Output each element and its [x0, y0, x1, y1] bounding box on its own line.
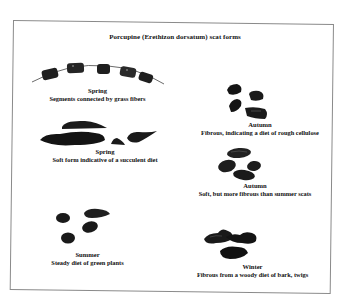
description-label: Soft, but more fibrous than summer scats [175, 190, 335, 198]
caption-winter: Winter Fibrous from a woody diet of bark… [170, 263, 335, 279]
figure-title: Porcupine (Erethizon dorsatum) scat form… [0, 33, 350, 41]
spring-segmented-scat-illustration [28, 56, 168, 88]
autumn-soft-scat-illustration [217, 147, 279, 182]
caption-summer: Summer Steady diet of green plants [25, 251, 150, 267]
caption-autumn-2: Autumn Soft, but more fibrous than summe… [175, 182, 335, 198]
season-label: Autumn [175, 182, 335, 190]
season-label: Spring [25, 87, 170, 95]
caption-autumn-1: Autumn Fibrous, indicating a diet of rou… [185, 121, 335, 137]
season-label: Autumn [185, 121, 335, 129]
caption-spring-1: Spring Segments connected by grass fiber… [25, 87, 170, 103]
description-label: Soft form indicative of a succulent diet [25, 156, 185, 164]
season-label: Summer [25, 251, 150, 259]
spring-soft-scat-illustration [35, 118, 165, 148]
description-label: Segments connected by grass fibers [25, 95, 170, 103]
description-label: Fibrous, indicating a diet of rough cell… [185, 129, 335, 137]
autumn-fibrous-scat-illustration [225, 82, 275, 122]
season-label: Spring [25, 148, 185, 156]
description-label: Fibrous from a woody diet of bark, twigs [170, 271, 335, 279]
winter-woody-scat-illustration [202, 225, 267, 261]
season-label: Winter [170, 263, 335, 271]
caption-spring-2: Spring Soft form indicative of a succule… [25, 148, 185, 164]
summer-scat-illustration [52, 207, 117, 247]
description-label: Steady diet of green plants [25, 259, 150, 267]
